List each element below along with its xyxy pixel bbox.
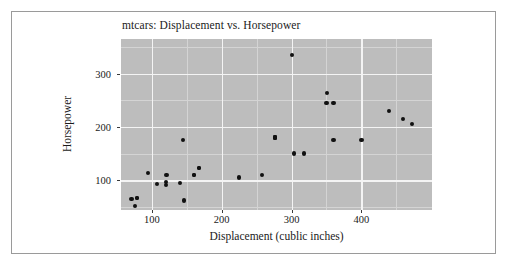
data-point	[302, 151, 306, 155]
data-point	[325, 91, 329, 95]
data-point	[146, 171, 150, 175]
y-axis-tick	[117, 127, 120, 128]
x-axis-tick	[292, 210, 293, 213]
gridline-horizontal-minor	[121, 100, 432, 101]
figure-frame: mtcars: Displacement vs. Horsepower Hors…	[11, 11, 496, 254]
x-axis-tick	[222, 210, 223, 213]
data-point	[164, 183, 168, 187]
gridline-horizontal-minor	[121, 154, 432, 155]
page-title: mtcars: Displacement vs. Horsepower	[122, 19, 301, 31]
x-axis-tick-label: 200	[214, 214, 230, 225]
data-point	[181, 138, 185, 142]
scatter-plot: mtcars: Displacement vs. Horsepower Hors…	[12, 12, 497, 255]
data-point	[331, 101, 335, 105]
data-point	[331, 138, 335, 142]
gridline-vertical-minor	[187, 39, 188, 210]
x-axis-tick-label: 400	[354, 214, 370, 225]
y-axis-tick-label: 100	[71, 175, 117, 186]
y-axis-tick-label: 200	[71, 121, 117, 132]
data-point	[133, 204, 137, 208]
data-point	[178, 181, 182, 185]
y-axis-tick	[117, 180, 120, 181]
x-axis-tick	[152, 210, 153, 213]
y-axis-tick	[117, 74, 120, 75]
gridline-horizontal-minor	[121, 47, 432, 48]
x-axis-tick-label: 300	[284, 214, 300, 225]
data-point	[410, 122, 414, 126]
gridline-vertical-major	[361, 39, 362, 210]
data-point	[192, 173, 196, 177]
x-axis-tick-label: 100	[144, 214, 160, 225]
gridline-vertical-minor	[326, 39, 327, 210]
data-point	[129, 197, 133, 201]
data-point	[155, 182, 159, 186]
gridline-horizontal-minor	[121, 207, 432, 208]
y-axis-tick-label: 300	[71, 68, 117, 79]
x-axis-tick	[361, 210, 362, 213]
gridline-vertical-major	[292, 39, 293, 210]
gridline-horizontal-major	[121, 127, 432, 128]
data-point	[164, 173, 168, 177]
data-point	[324, 101, 328, 105]
data-point	[237, 175, 241, 179]
data-point	[135, 196, 139, 200]
gridline-vertical-major	[152, 39, 153, 210]
data-point	[290, 53, 294, 57]
data-point	[197, 166, 201, 170]
data-point	[273, 135, 277, 139]
data-point	[292, 151, 296, 155]
gridline-vertical-minor	[396, 39, 397, 210]
data-point	[260, 173, 264, 177]
data-point	[401, 117, 405, 121]
gridline-vertical-major	[222, 39, 223, 210]
gridline-horizontal-major	[121, 74, 432, 75]
gridline-vertical-minor	[257, 39, 258, 210]
data-point	[387, 109, 391, 113]
x-axis-title: Displacement (cublic inches)	[121, 230, 432, 242]
plot-panel	[121, 39, 432, 210]
data-point	[359, 138, 363, 142]
